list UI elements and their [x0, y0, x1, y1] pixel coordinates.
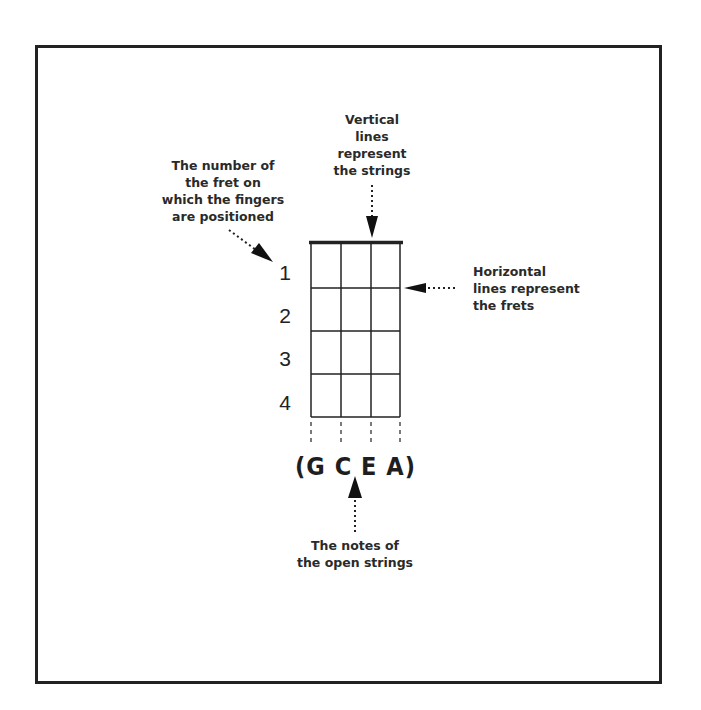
- chord-diagram: Vertical lines represent the strings The…: [0, 0, 701, 710]
- fret-number-2: 2: [279, 304, 291, 327]
- arrow-diagonal-icon: [251, 243, 273, 262]
- fret-number-4: 4: [279, 391, 291, 414]
- strings-label-line-1: Vertical: [345, 112, 399, 127]
- fret-number-label-line-1: The number of: [171, 158, 275, 173]
- strings-label-line-3: represent: [337, 146, 406, 161]
- open-notes-annotation: The notes of the open strings: [297, 476, 413, 570]
- arrow-down-icon: [366, 216, 378, 238]
- fret-number-3: 3: [279, 347, 291, 370]
- fret-number-label-line-4: are positioned: [172, 209, 274, 224]
- frets-annotation: Horizontal lines represent the frets: [404, 264, 580, 313]
- fret-number-label-line-3: which the fingers: [162, 192, 284, 207]
- fret-number-1: 1: [279, 261, 291, 284]
- fret-numbers: 1 2 3 4: [279, 261, 291, 414]
- strings-annotation: Vertical lines represent the strings: [334, 112, 411, 238]
- fretboard-grid: [309, 243, 403, 418]
- frets-label-line-3: the frets: [473, 298, 534, 313]
- frets-label-line-1: Horizontal: [473, 264, 546, 279]
- dotted-arrow-line: [229, 230, 256, 250]
- string-extensions: [311, 422, 400, 446]
- strings-label-line-2: lines: [355, 129, 388, 144]
- strings-label-line-4: the strings: [334, 163, 411, 178]
- open-notes-label-line-1: The notes of: [311, 538, 400, 553]
- frets-label-line-2: lines represent: [473, 281, 580, 296]
- fret-number-label-line-2: the fret on: [185, 175, 261, 190]
- fret-number-annotation: The number of the fret on which the fing…: [162, 158, 284, 262]
- arrow-left-icon: [404, 283, 426, 293]
- open-notes-label-line-2: the open strings: [297, 555, 413, 570]
